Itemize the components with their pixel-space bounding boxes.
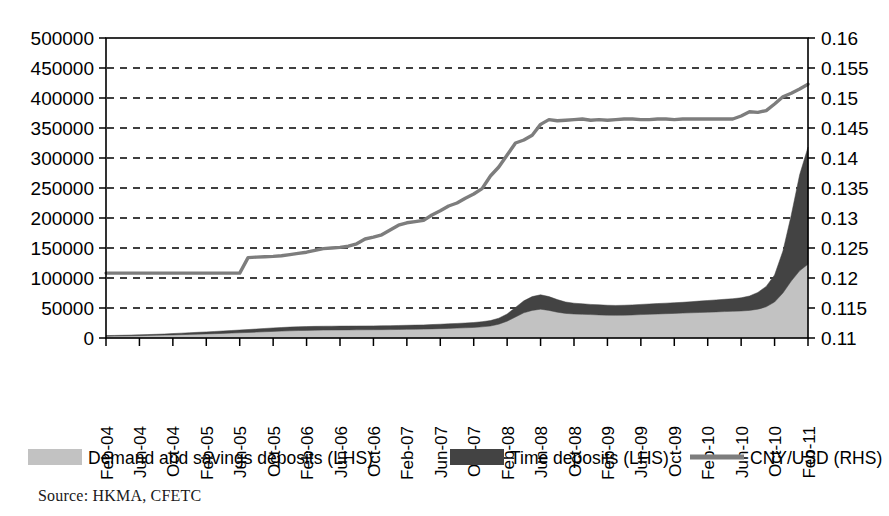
right-axis-tick-label: 0.135: [821, 178, 869, 199]
left-axis-tick-label: 300000: [31, 148, 94, 169]
x-axis-tick-label: Jun-07: [432, 426, 451, 478]
right-axis-labels: 0.110.1150.120.1250.130.1350.140.1450.15…: [821, 28, 869, 349]
cny-usd-line: [106, 84, 808, 273]
x-axis-tick-label: Feb-07: [398, 426, 417, 480]
left-axis-labels: 0500001000001500002000002500003000003500…: [31, 28, 94, 349]
left-axis-tick-label: 350000: [31, 118, 94, 139]
right-axis-tick-label: 0.12: [821, 268, 858, 289]
source-note: Source: HKMA, CFETC: [38, 487, 201, 505]
left-axis-tick-label: 150000: [31, 238, 94, 259]
plot-area: [99, 38, 815, 346]
left-axis-tick-label: 200000: [31, 208, 94, 229]
legend-label: Time deposits (LHS): [510, 448, 669, 468]
legend-item: Time deposits (LHS): [450, 448, 669, 468]
right-axis-tick-label: 0.11: [821, 328, 857, 349]
right-axis-tick-label: 0.125: [821, 238, 869, 259]
line-series: [106, 84, 808, 273]
chart-legend: Demand and savings deposits (LHS)Time de…: [28, 448, 882, 468]
legend-label: Demand and savings deposits (LHS): [88, 448, 373, 468]
left-axis-tick-label: 450000: [31, 58, 94, 79]
right-axis-tick-label: 0.16: [821, 28, 858, 49]
right-axis-tick-label: 0.14: [821, 148, 858, 169]
stacked-area-series: [106, 147, 808, 338]
left-axis-tick-label: 100000: [31, 268, 94, 289]
x-axis-tick-label: Feb-10: [699, 426, 718, 480]
legend-swatch: [450, 449, 504, 465]
left-axis-tick-label: 50000: [41, 298, 94, 319]
right-axis-tick-label: 0.155: [821, 58, 869, 79]
legend-item: CNY/USD (RHS): [690, 448, 882, 468]
left-axis-tick-label: 250000: [31, 178, 94, 199]
x-axis-tick-label: Jun-10: [733, 426, 752, 478]
axis-ticks: [99, 38, 815, 346]
legend-swatch-line: [690, 455, 744, 460]
left-axis-tick-label: 0: [83, 328, 94, 349]
left-axis-tick-label: 400000: [31, 88, 94, 109]
right-axis-tick-label: 0.145: [821, 118, 869, 139]
right-axis-tick-label: 0.115: [821, 298, 867, 319]
deposits-and-cny-usd-chart: 0500001000001500002000002500003000003500…: [0, 0, 889, 516]
legend-swatch: [28, 449, 82, 465]
right-axis-tick-label: 0.15: [821, 88, 858, 109]
left-axis-tick-label: 500000: [31, 28, 94, 49]
legend-item: Demand and savings deposits (LHS): [28, 448, 373, 468]
legend-label: CNY/USD (RHS): [750, 448, 882, 468]
right-axis-tick-label: 0.13: [821, 208, 858, 229]
chart-container: 0500001000001500002000002500003000003500…: [0, 0, 889, 516]
